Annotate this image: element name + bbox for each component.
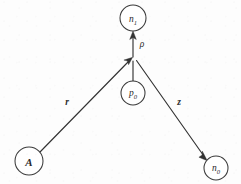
diagram-svg: n1 p0 A n0 ρ r z xyxy=(0,0,241,184)
edge-line-z xyxy=(137,61,204,156)
node-group: n1 p0 A n0 xyxy=(15,5,228,180)
edge-label-r: r xyxy=(65,97,69,107)
arrowhead-z-to-n0 xyxy=(199,151,207,161)
figure-canvas: n1 p0 A n0 ρ r z xyxy=(0,0,241,184)
node-a-label: A xyxy=(24,156,32,168)
edge-label-z: z xyxy=(176,97,181,107)
node-n1-sub: 1 xyxy=(134,18,137,25)
edge-line-r xyxy=(40,62,129,153)
arrowhead-r-to-vertex xyxy=(124,57,133,64)
edge-label-rho: ρ xyxy=(139,39,145,49)
